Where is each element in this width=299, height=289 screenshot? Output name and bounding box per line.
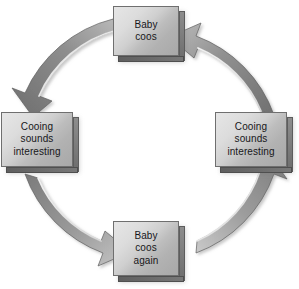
node-left-face: Cooing sounds interesting <box>1 112 73 167</box>
node-bottom-face: Baby coos again <box>113 221 179 276</box>
node-right-side-right <box>287 117 293 172</box>
arrow-top-to-left <box>12 19 117 117</box>
node-left-line-1: Cooing <box>21 121 53 134</box>
node-left-side-right <box>73 117 79 172</box>
node-top-side-bottom <box>118 56 184 62</box>
node-top-line-1: Baby <box>134 19 157 32</box>
node-bottom[interactable]: Baby coos again <box>113 221 179 276</box>
node-top-face: Baby coos <box>113 6 179 56</box>
node-bottom-side-right <box>179 226 185 281</box>
node-right[interactable]: Cooing sounds interesting <box>215 112 287 167</box>
node-left-line-3: interesting <box>13 146 60 159</box>
node-bottom-line-3: again <box>134 255 159 268</box>
node-bottom-line-1: Baby <box>134 230 157 243</box>
node-right-line-2: sounds <box>235 133 268 146</box>
node-right-line-3: interesting <box>227 146 274 159</box>
node-top-side-right <box>179 11 185 61</box>
node-right-side-bottom <box>220 167 292 173</box>
node-left-side-bottom <box>6 167 78 173</box>
node-bottom-side-bottom <box>118 276 184 282</box>
node-left-line-2: sounds <box>21 133 54 146</box>
node-left[interactable]: Cooing sounds interesting <box>1 112 73 167</box>
node-top-line-2: coos <box>135 31 157 44</box>
node-right-line-1: Cooing <box>235 121 267 134</box>
node-right-face: Cooing sounds interesting <box>215 112 287 167</box>
node-top[interactable]: Baby coos <box>113 6 179 56</box>
node-bottom-line-2: coos <box>135 242 157 255</box>
cycle-diagram: Baby coos Cooing sounds interesting Cooi… <box>0 0 299 289</box>
